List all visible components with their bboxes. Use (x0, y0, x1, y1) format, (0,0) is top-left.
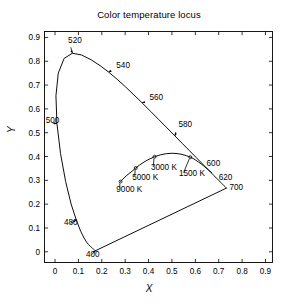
svg-text:600: 600 (207, 159, 221, 168)
svg-text:3000 K: 3000 K (151, 163, 177, 172)
svg-text:0.1: 0.1 (73, 267, 85, 276)
svg-text:560: 560 (149, 93, 163, 102)
y-axis-label: Y (6, 126, 17, 133)
x-axis-label: X (0, 283, 298, 294)
svg-text:0.3: 0.3 (119, 267, 131, 276)
svg-text:0.6: 0.6 (29, 105, 41, 114)
svg-text:480: 480 (64, 218, 78, 227)
svg-text:500: 500 (46, 116, 60, 125)
data-curves (56, 53, 226, 250)
svg-text:540: 540 (116, 61, 130, 70)
axis-tick-labels: 00.10.20.30.40.50.60.70.80.900.10.20.30.… (29, 33, 272, 276)
svg-text:0.2: 0.2 (96, 267, 108, 276)
svg-text:0.7: 0.7 (29, 81, 41, 90)
svg-text:0.4: 0.4 (143, 267, 155, 276)
data-annotations: 4004805005205405605806006207009000 K5000… (46, 36, 244, 260)
svg-text:620: 620 (219, 173, 233, 182)
svg-text:0: 0 (53, 267, 58, 276)
figure-canvas: Color temperature locus 00.10.20.30.40.5… (0, 0, 298, 307)
axis-ticks (45, 32, 273, 263)
svg-text:520: 520 (68, 36, 82, 45)
svg-text:1500 K: 1500 K (179, 169, 205, 178)
svg-text:580: 580 (178, 120, 192, 129)
svg-text:700: 700 (229, 183, 243, 192)
axes-frame (45, 32, 273, 263)
svg-text:0.1: 0.1 (29, 224, 41, 233)
svg-text:0.2: 0.2 (29, 200, 41, 209)
svg-text:0.6: 0.6 (190, 267, 202, 276)
chromaticity-plot: 00.10.20.30.40.50.60.70.80.900.10.20.30.… (0, 0, 298, 307)
svg-text:0.9: 0.9 (260, 267, 272, 276)
svg-text:5000 K: 5000 K (132, 173, 158, 182)
svg-text:0.5: 0.5 (166, 267, 178, 276)
svg-text:0.8: 0.8 (29, 57, 41, 66)
svg-text:0.7: 0.7 (213, 267, 225, 276)
svg-text:400: 400 (86, 250, 100, 259)
svg-text:9000 K: 9000 K (116, 185, 142, 194)
svg-text:0.4: 0.4 (29, 153, 41, 162)
svg-text:0.5: 0.5 (29, 129, 41, 138)
svg-text:0.3: 0.3 (29, 176, 41, 185)
svg-text:0.9: 0.9 (29, 33, 41, 42)
svg-text:0.8: 0.8 (236, 267, 248, 276)
svg-text:0: 0 (35, 248, 40, 257)
